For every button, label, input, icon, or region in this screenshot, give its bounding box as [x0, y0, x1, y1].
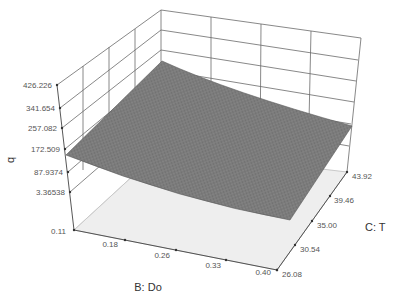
- x-tick-label: 0.40: [255, 268, 271, 277]
- z-tick-label: 172.509: [31, 145, 60, 154]
- z-tick-label: 257.082: [28, 124, 57, 133]
- z-axis-title: q: [4, 157, 16, 163]
- y-tick-label: 43.92: [352, 172, 373, 181]
- z-tick-label: 87.9374: [34, 168, 63, 177]
- z-axis: 426.226 341.654 257.082 172.509 87.9374 …: [4, 81, 74, 230]
- z-tick-label: 341.654: [26, 104, 55, 113]
- surface-plot: 426.226 341.654 257.082 172.509 87.9374 …: [0, 0, 398, 302]
- x-tick-label: 0.18: [102, 240, 118, 249]
- y-tick-label: 30.54: [300, 245, 321, 254]
- x-tick-label: 0.33: [205, 261, 221, 270]
- y-tick-label: 26.08: [282, 270, 303, 279]
- x-axis-title: B: Do: [134, 281, 162, 293]
- z-tick-label: 3.36538: [36, 188, 65, 197]
- y-tick-label: 35.00: [317, 221, 338, 230]
- z-tick-label: 426.226: [23, 81, 52, 90]
- y-tick-label: 39.46: [334, 196, 355, 205]
- surface-plot-svg: 426.226 341.654 257.082 172.509 87.9374 …: [0, 0, 398, 302]
- x-tick-label: 0.11: [51, 227, 67, 236]
- y-axis-title: C: T: [365, 221, 386, 233]
- x-tick-label: 0.26: [154, 251, 170, 260]
